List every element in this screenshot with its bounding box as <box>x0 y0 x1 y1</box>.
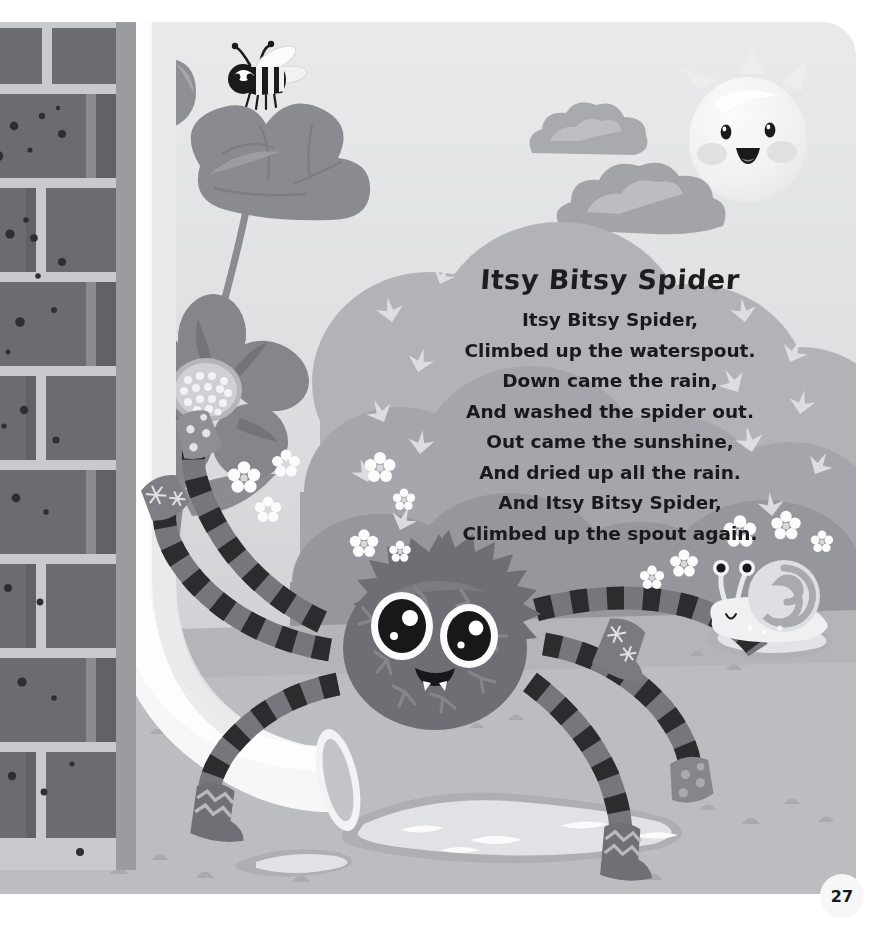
poem-title: Itsy Bitsy Spider <box>429 266 791 293</box>
illustration-stage: Itsy Bitsy Spider Itsy Bitsy Spider,Clim… <box>0 22 856 894</box>
boot-right-spotted <box>668 755 715 805</box>
poem-line: And Itsy Bitsy Spider, <box>430 488 790 519</box>
poem-line: Down came the rain, <box>430 366 790 397</box>
snail-shell <box>748 560 820 632</box>
sun-cheek-left <box>697 143 727 165</box>
book-page: Itsy Bitsy Spider Itsy Bitsy Spider,Clim… <box>0 0 878 940</box>
page-number-text: 27 <box>831 887 853 906</box>
brick-wall <box>0 22 136 870</box>
spider-eye-right <box>440 604 498 668</box>
poem-line: Out came the sunshine, <box>430 427 790 458</box>
poem-line: Climbed up the waterspout. <box>430 336 790 367</box>
poem-line: Climbed up the spout again. <box>430 519 790 550</box>
sun-cheek-right <box>767 141 797 163</box>
poem-line: And washed the spider out. <box>430 397 790 428</box>
wall-edge-shadow <box>116 22 136 870</box>
sun-eye-right <box>765 123 776 138</box>
spider-eye-left <box>371 592 433 660</box>
poem-lines: Itsy Bitsy Spider,Climbed up the watersp… <box>430 305 790 549</box>
poem-block: Itsy Bitsy Spider Itsy Bitsy Spider,Clim… <box>430 266 790 549</box>
poem-line: Itsy Bitsy Spider, <box>430 305 790 336</box>
poem-line: And dried up all the rain. <box>430 458 790 489</box>
sun-eye-left <box>721 125 732 140</box>
page-number-badge: 27 <box>820 874 864 918</box>
